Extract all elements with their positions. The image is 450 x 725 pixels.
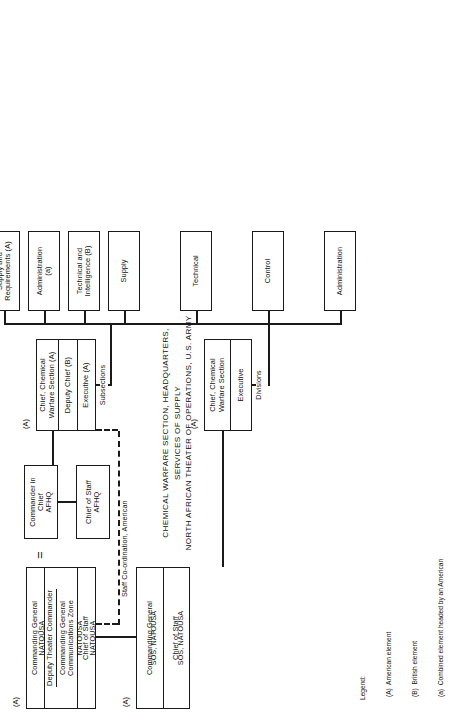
afhq-commander-in-chief-box: Commander in Chief AFHQ xyxy=(24,465,58,539)
division-supply-box: Supply xyxy=(108,231,140,311)
connector-natousa-to-sos xyxy=(96,636,136,638)
natousa-deputy-theater-commander-cell: Deputy Theater Commander Commanding Gene… xyxy=(44,568,77,708)
subsections-label: Subsections xyxy=(99,339,107,431)
subsection-technical-intelligence-box: Technical and Intelligence (B) xyxy=(68,231,100,311)
divisions-entry-line xyxy=(268,325,270,386)
divisions-label: Divisions xyxy=(255,339,263,431)
legend-item-combined: (a) Combined element headed by an Americ… xyxy=(437,559,446,697)
cws-afhq-deputy-chief-cell: Deputy Chief (B) xyxy=(58,340,76,430)
subsections-entry-line xyxy=(110,325,112,386)
connector-sos-to-cws-sos xyxy=(222,431,224,567)
cws-afhq-executive-cell: Executive (A) xyxy=(77,340,95,430)
division-supply-label: Supply xyxy=(120,259,128,282)
staff-coordination-dashed-riser xyxy=(96,623,118,625)
connector-cos-to-cws xyxy=(52,431,54,465)
cws-afhq-box: Chief, Chemical Warfare Section (A) Depu… xyxy=(36,339,96,431)
legend-heading: Legend: xyxy=(359,676,366,700)
subsection-supply-line2: Requirements (A) xyxy=(4,241,12,301)
subsection-admin-line2: (a) xyxy=(44,266,52,275)
division-control-box: Control xyxy=(252,231,284,311)
connector-division-1 xyxy=(268,311,270,325)
cws-sos-box: Chief, Chemical Warfare Section Executiv… xyxy=(204,339,252,431)
cws-afhq-executive-label: Executive (A) xyxy=(82,362,90,407)
connector-division-2 xyxy=(196,311,198,325)
legend: Legend: (A) American element (B) British… xyxy=(350,559,450,711)
cws-afhq-tag: (A) xyxy=(22,419,29,429)
cws-sos-chief-line2: Warfare Section xyxy=(218,358,226,412)
chart-title-line2: NORTH AFRICAN THEATER OF OPERATIONS, U.S… xyxy=(183,309,195,557)
divisions-vertical-bus xyxy=(188,323,340,325)
afhq-chief-of-staff-box: Chief of Staff AFHQ xyxy=(76,465,110,539)
division-administration-box: Administration xyxy=(324,231,356,311)
chart-title-line1: CHEMICAL WARFARE SECTION, HEADQUARTERS, … xyxy=(160,309,183,557)
connector-subsection-1 xyxy=(84,311,86,325)
afhq-cinc-line1: Commander in Chief xyxy=(29,468,46,536)
chart-title: CHEMICAL WARFARE SECTION, HEADQUARTERS, … xyxy=(160,309,195,557)
legend-item-american: (A) American element xyxy=(385,559,394,697)
natousa-cg-line2: NATOUSA xyxy=(38,567,46,709)
sos-cos-line2: SOS, NATOUSA xyxy=(177,567,185,709)
cws-afhq-deputy-label: Deputy Chief (B) xyxy=(64,357,72,413)
natousa-group-tag: (A) xyxy=(12,697,19,707)
legend-item-british: (B) British element xyxy=(411,559,420,697)
subsections-stub xyxy=(96,384,100,386)
natousa-cos-line2: NATOUSA xyxy=(89,567,97,709)
cws-sos-chief-cell: Chief, Chemical Warfare Section xyxy=(205,340,230,430)
equivalence-symbol: = xyxy=(33,551,46,559)
division-technical-box: Technical xyxy=(180,231,212,311)
subsection-tech-line2: Intelligence (B) xyxy=(84,246,92,297)
subsections-bus-upper xyxy=(4,323,46,325)
division-admin-label: Administration xyxy=(336,247,344,295)
cws-sos-executive-label: Executive xyxy=(237,369,245,402)
cws-sos-executive-cell: Executive xyxy=(230,340,251,430)
sos-group-tag: (A) xyxy=(122,697,129,707)
natousa-dtc-line1: Deputy Theater Commander xyxy=(46,590,55,686)
connector-cinc-to-cos xyxy=(58,501,76,503)
divisions-stub xyxy=(252,384,256,386)
cws-afhq-chief-cell: Chief, Chemical Warfare Section (A) xyxy=(37,340,58,430)
division-control-label: Control xyxy=(264,259,272,284)
staff-coordination-dashed-drop xyxy=(96,429,118,431)
subsection-supply-requirements-box: Supply and Requirements (A) xyxy=(0,231,20,311)
subsection-administration-box: Administration (a) xyxy=(28,231,60,311)
connector-division-0 xyxy=(340,311,342,325)
natousa-dtc-line4: NATOUSA xyxy=(76,567,84,709)
sos-cg-line2: SOS, NATOUSA xyxy=(150,567,158,709)
staff-coordination-label: Staff Co-ordination, American xyxy=(121,500,129,597)
division-technical-label: Technical xyxy=(192,255,200,287)
afhq-cos-line2: AFHQ xyxy=(93,492,101,513)
afhq-cinc-line2: AFHQ xyxy=(45,492,53,513)
cws-afhq-chief-line2: Warfare Section (A) xyxy=(48,352,56,419)
